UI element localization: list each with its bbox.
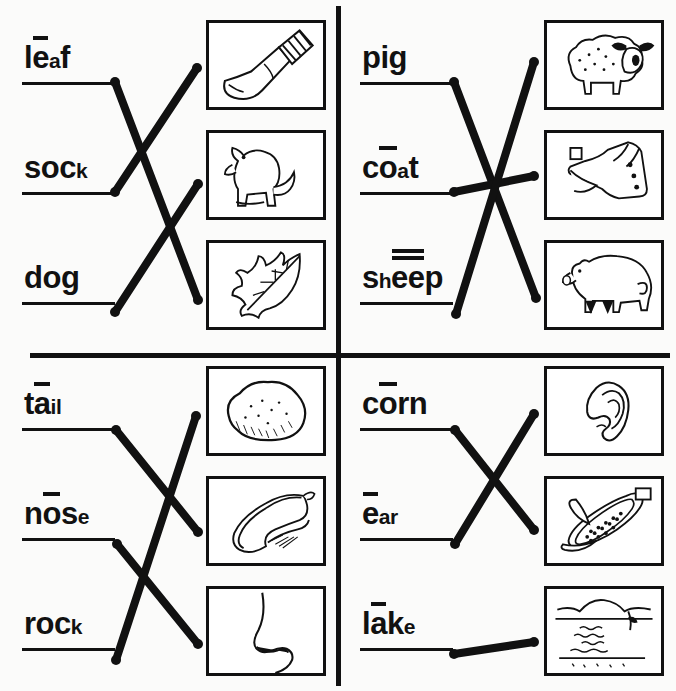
letter-r: r <box>24 606 36 641</box>
picture-box-rock[interactable] <box>206 366 326 456</box>
picture-box-nose[interactable] <box>206 586 326 676</box>
ear-illustration <box>547 369 661 453</box>
letter-f: f <box>60 40 70 75</box>
rock-illustration <box>209 369 323 453</box>
picture-box-ear[interactable] <box>544 366 664 456</box>
word-row-corn[interactable]: corn <box>358 388 468 444</box>
corn-illustration <box>547 479 661 563</box>
picture-box-corn[interactable] <box>544 476 664 566</box>
sheep-illustration <box>547 23 661 107</box>
word-row-pig[interactable]: pig <box>358 42 468 98</box>
word-underline <box>360 302 453 305</box>
letter-k: k <box>387 606 404 641</box>
letter-o: o <box>36 606 54 641</box>
letter-h: h <box>379 269 391 292</box>
leaf-illustration <box>209 243 323 327</box>
line-dot <box>193 179 203 189</box>
line-dot <box>529 637 539 647</box>
word-row-sock[interactable]: sock <box>20 152 130 208</box>
letter-i: i <box>380 40 388 75</box>
letter-p: p <box>362 40 380 75</box>
word-underline <box>360 538 453 541</box>
word-row-ear[interactable]: ear <box>358 498 468 554</box>
letter-a: a <box>397 159 408 182</box>
letter-s: s <box>362 260 379 295</box>
coat-illustration <box>547 133 661 217</box>
word-label-corn: corn <box>358 388 468 422</box>
letter-e: e <box>404 615 415 638</box>
letter-k: k <box>76 159 87 182</box>
word-underline <box>22 648 115 651</box>
picture-box-coat[interactable] <box>544 130 664 220</box>
word-row-leaf[interactable]: leaf <box>20 42 130 98</box>
quadrant-top-left: leaf sock dog <box>0 0 338 345</box>
quadrant-bottom-left: tail nose rock <box>0 346 338 691</box>
word-row-lake[interactable]: lake <box>358 608 468 664</box>
word-label-sock: sock <box>20 152 130 186</box>
letter-e-macron: e <box>362 498 379 529</box>
letter-c: c <box>362 386 379 421</box>
letter-o-macron: o <box>42 498 60 529</box>
line-dot <box>193 639 203 649</box>
word-label-coat: coat <box>358 152 468 186</box>
letter-g: g <box>389 40 407 75</box>
word-label-pig: pig <box>358 42 468 76</box>
letter-a: a <box>49 49 60 72</box>
word-label-dog: dog <box>20 262 130 296</box>
picture-box-sock[interactable] <box>206 20 326 110</box>
word-row-sheep[interactable]: sheep <box>358 262 468 318</box>
tail-illustration <box>209 479 323 563</box>
word-underline <box>22 302 115 305</box>
picture-box-lake[interactable] <box>544 586 664 676</box>
letter-e: e <box>78 505 89 528</box>
picture-box-sheep[interactable] <box>544 20 664 110</box>
line-dot <box>193 527 203 537</box>
sock-illustration <box>209 23 323 107</box>
letter-c: c <box>59 150 76 185</box>
letter-r: r <box>397 386 409 421</box>
word-label-nose: nose <box>20 498 130 532</box>
word-underline <box>22 428 115 431</box>
picture-box-pig[interactable] <box>544 240 664 330</box>
word-underline <box>360 192 453 195</box>
line-dot <box>529 57 539 67</box>
line-dot <box>531 293 541 303</box>
word-row-rock[interactable]: rock <box>20 608 130 664</box>
dog-illustration <box>209 133 323 217</box>
letter-n: n <box>409 386 427 421</box>
worksheet-page: leaf sock dog <box>0 0 676 691</box>
line-dot <box>192 63 202 73</box>
line-dot <box>529 171 539 181</box>
letter-e-macron: e <box>32 42 49 73</box>
word-label-ear: ear <box>358 498 468 532</box>
letter-n: n <box>24 496 42 531</box>
letter-r: r <box>390 505 398 528</box>
word-label-sheep: sheep <box>358 262 468 296</box>
word-row-dog[interactable]: dog <box>20 262 130 318</box>
word-underline <box>22 192 115 195</box>
lake-illustration <box>547 589 661 673</box>
word-underline <box>360 428 453 431</box>
letter-l: l <box>362 606 370 641</box>
picture-box-dog[interactable] <box>206 130 326 220</box>
word-label-rock: rock <box>20 608 130 642</box>
line-dot <box>191 411 201 421</box>
letter-s: s <box>61 496 78 531</box>
word-underline <box>22 82 115 85</box>
letter-c: c <box>54 606 71 641</box>
word-row-tail[interactable]: tail <box>20 388 130 444</box>
letter-l: l <box>56 395 61 418</box>
line-dot <box>529 409 539 419</box>
picture-box-tail[interactable] <box>206 476 326 566</box>
word-underline <box>360 648 453 651</box>
letter-k: k <box>71 615 82 638</box>
letter-o: o <box>42 260 60 295</box>
letter-o: o <box>41 150 59 185</box>
word-row-coat[interactable]: coat <box>358 152 468 208</box>
picture-box-leaf[interactable] <box>206 240 326 330</box>
letter-s: s <box>24 150 41 185</box>
letter-o-macron: o <box>379 388 397 419</box>
word-row-nose[interactable]: nose <box>20 498 130 554</box>
line-dot <box>193 295 203 305</box>
letter-a: a <box>379 505 390 528</box>
